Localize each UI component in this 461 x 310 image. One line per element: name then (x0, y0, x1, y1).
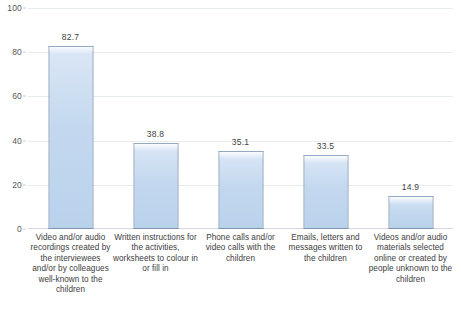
bar-gloss-icon (304, 156, 347, 163)
category-label-1: Video and/or audio recordings created by… (28, 233, 113, 295)
bar-value-4: 33.5 (317, 141, 334, 151)
y-tick-label-100: 100 (7, 3, 22, 13)
y-tick-mark-60 (23, 96, 26, 97)
y-tick-mark-20 (23, 184, 26, 185)
bar-gloss-icon (134, 144, 177, 151)
bar-4[interactable] (303, 155, 348, 229)
bar-chart: 100 80 60 40 20 0 82.7 38.8 35.1 (0, 0, 461, 310)
bar-1[interactable] (48, 46, 93, 229)
y-tick-mark-80 (23, 52, 26, 53)
y-axis: 100 80 60 40 20 0 (0, 8, 26, 229)
x-axis-labels: Video and/or audio recordings created by… (28, 233, 453, 299)
category-label-3: Phone calls and/or video calls with the … (198, 233, 283, 264)
bar-gloss-icon (389, 197, 432, 204)
bar-value-5: 14.9 (402, 182, 419, 192)
y-tick-mark-0 (23, 229, 26, 230)
bar-slot-1: 82.7 (28, 8, 113, 229)
bar-2[interactable] (133, 143, 178, 229)
bar-5[interactable] (388, 196, 433, 229)
category-label-4: Emails, letters and messages written to … (283, 233, 368, 264)
y-tick-label-0: 0 (17, 224, 22, 234)
bar-gloss-icon (49, 47, 92, 54)
bar-3[interactable] (218, 151, 263, 229)
y-tick-label-80: 80 (12, 47, 22, 57)
y-tick-mark-100 (23, 8, 26, 9)
bar-slot-3: 35.1 (198, 8, 283, 229)
y-tick-mark-40 (23, 140, 26, 141)
bar-value-2: 38.8 (147, 129, 164, 139)
y-tick-label-20: 20 (12, 180, 22, 190)
bar-value-1: 82.7 (62, 32, 79, 42)
category-label-2: Written instructions for the activities,… (113, 233, 198, 275)
bar-slot-5: 14.9 (368, 8, 453, 229)
clipped-caption (0, 301, 461, 310)
bar-value-3: 35.1 (232, 137, 249, 147)
category-label-5: Videos and/or audio materials selected o… (368, 233, 453, 285)
bar-gloss-icon (219, 152, 262, 159)
y-tick-label-60: 60 (12, 91, 22, 101)
y-tick-label-40: 40 (12, 136, 22, 146)
bars-layer: 82.7 38.8 35.1 33.5 14.9 (28, 8, 453, 229)
bar-slot-4: 33.5 (283, 8, 368, 229)
bar-slot-2: 38.8 (113, 8, 198, 229)
